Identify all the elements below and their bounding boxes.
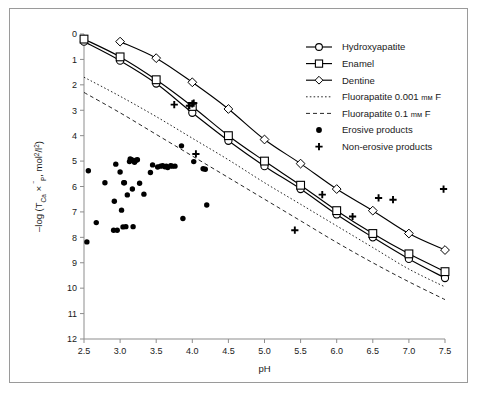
legend-item[interactable]: Fluorapatite 0.1 mм F	[306, 108, 431, 119]
scatter-point	[191, 159, 196, 164]
scatter-point	[204, 202, 209, 207]
marker-diamond	[188, 78, 197, 87]
legend-label: Erosive products	[342, 124, 413, 135]
y-axis-title: –log (TCa × ‾P, mol2/l2)	[33, 141, 47, 232]
marker-diamond	[332, 185, 341, 194]
marker-diamond	[405, 229, 414, 238]
x-tick-label: 6.0	[330, 346, 343, 356]
marker-square	[261, 157, 269, 165]
legend-item[interactable]: Non-erosive products	[315, 141, 432, 152]
scatter-point	[123, 224, 128, 229]
scatter-point-plus	[171, 101, 178, 108]
x-tick-label: 3.5	[150, 346, 163, 356]
scatter-point	[122, 180, 127, 185]
scatter-point-plus	[389, 196, 396, 203]
x-tick-label: 7.5	[439, 346, 452, 356]
legend-item[interactable]: Hydroxyapatite	[306, 41, 405, 52]
scatter-point	[84, 239, 89, 244]
y-tick-label: 0	[72, 29, 77, 39]
scatter-point	[135, 157, 140, 162]
scatter-point-plus	[375, 194, 382, 201]
y-tick-label: 9	[72, 258, 77, 268]
marker-diamond	[296, 159, 305, 168]
scatter-point	[148, 170, 153, 175]
legend-marker-dot	[316, 127, 322, 133]
y-tick-label: 6	[72, 182, 77, 192]
y-axis-title-text: –log (TCa × ‾P, mol2/l2)	[33, 141, 47, 232]
legend-marker-square	[315, 60, 322, 67]
marker-diamond	[152, 54, 161, 63]
legend-marker-circle	[316, 44, 323, 51]
y-tick-label: 5	[72, 156, 77, 166]
y-tick-label: 3	[72, 106, 77, 116]
scatter-point	[130, 186, 135, 191]
marker-diamond	[368, 206, 377, 215]
legend-marker-plus	[315, 143, 322, 150]
y-tick-label: 11	[68, 309, 77, 319]
y-tick-label: 12	[67, 334, 77, 344]
marker-square	[333, 207, 341, 215]
marker-square	[80, 35, 88, 43]
series-enamel	[80, 35, 449, 275]
scatter-point	[130, 224, 135, 229]
marker-square	[297, 181, 305, 189]
y-tick-label: 1	[72, 55, 77, 65]
legend-label: Fluorapatite 0.001 mм F	[342, 91, 441, 102]
scatter-point	[115, 228, 120, 233]
legend-item[interactable]: Erosive products	[316, 124, 413, 135]
marker-square	[152, 76, 160, 84]
y-tick-label: 2	[72, 80, 77, 90]
scatter-point	[112, 199, 117, 204]
marker-diamond	[441, 246, 450, 255]
x-tick-label: 3.0	[114, 346, 127, 356]
x-tick-label: 4.5	[222, 346, 235, 356]
scatter-non-erosive-products	[171, 100, 448, 234]
legend-label: Enamel	[342, 58, 374, 69]
x-tick-label: 2.5	[78, 346, 91, 356]
x-axis-title: pH	[258, 363, 270, 374]
legend-label: Hydroxyapatite	[342, 41, 405, 52]
x-tick-label: 5.5	[294, 346, 307, 356]
scatter-point	[150, 162, 155, 167]
legend-item[interactable]: Fluorapatite 0.001 mм F	[306, 91, 441, 102]
scatter-point	[172, 163, 177, 168]
x-tick-label: 7.0	[403, 346, 416, 356]
marker-square	[441, 268, 449, 276]
scatter-point-plus	[319, 191, 326, 198]
scatter-point	[94, 220, 99, 225]
scatter-point-plus	[291, 227, 298, 234]
legend-item[interactable]: Dentine	[306, 75, 375, 86]
legend-label: Fluorapatite 0.1 mм F	[342, 108, 431, 119]
chart-canvas: 01234567891011122.53.03.54.04.55.05.56.0…	[10, 9, 467, 382]
marker-square	[405, 250, 413, 258]
scatter-point	[137, 180, 142, 185]
scatter-point	[86, 168, 91, 173]
x-tick-label: 5.0	[258, 346, 271, 356]
legend: HydroxyapatiteEnamelDentineFluorapatite …	[306, 41, 441, 152]
scatter-point	[102, 180, 107, 185]
y-tick-label: 8	[72, 233, 77, 243]
scatter-point	[179, 143, 184, 148]
y-tick-label: 7	[72, 207, 77, 217]
legend-label: Non-erosive products	[342, 141, 433, 152]
y-tick-label: 10	[67, 283, 77, 293]
scatter-point	[141, 191, 146, 196]
scatter-point	[203, 167, 208, 172]
legend-label: Dentine	[342, 75, 375, 86]
y-tick-label: 4	[72, 131, 77, 141]
x-tick-label: 4.0	[186, 346, 199, 356]
scatter-point	[113, 161, 118, 166]
legend-marker-diamond	[315, 76, 323, 84]
marker-diamond	[116, 37, 125, 46]
series-line	[84, 39, 445, 272]
figure-frame: 01234567891011122.53.03.54.04.55.05.56.0…	[9, 8, 468, 383]
marker-square	[116, 53, 124, 61]
marker-square	[369, 230, 377, 238]
x-tick-label: 6.5	[367, 346, 380, 356]
scatter-point	[180, 216, 185, 221]
scatter-point	[117, 169, 122, 174]
scatter-point-plus	[440, 185, 447, 192]
legend-item[interactable]: Enamel	[306, 58, 374, 69]
scatter-point	[119, 207, 124, 212]
scatter-erosive-products	[84, 143, 209, 244]
